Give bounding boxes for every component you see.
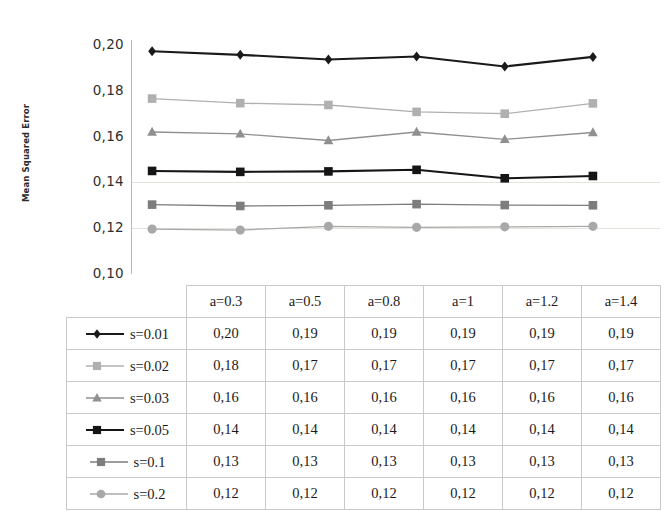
table-column-header: a=0.8 — [345, 286, 424, 318]
table-cell: 0,13 — [424, 446, 503, 478]
square-marker — [148, 167, 157, 176]
table-cell: 0,12 — [345, 478, 424, 510]
legend-label: s=0.01 — [130, 326, 169, 343]
plot-area — [131, 40, 660, 274]
square-marker — [589, 172, 598, 181]
legend-swatch — [84, 423, 126, 437]
square-marker — [148, 200, 157, 209]
table-row: s=0.20,120,120,120,120,120,12 — [67, 478, 661, 510]
table-cell: 0,19 — [266, 318, 345, 350]
diamond-marker — [413, 51, 421, 61]
legend-cell: s=0.01 — [67, 318, 187, 350]
series-line — [152, 170, 593, 178]
table-column-header: a=1.2 — [503, 286, 582, 318]
table-column-header: a=1 — [424, 286, 503, 318]
table-cell: 0,16 — [187, 382, 266, 414]
legend-label: s=0.1 — [134, 454, 166, 471]
square-marker — [589, 99, 598, 108]
table-cell: 0,17 — [266, 350, 345, 382]
table-cell: 0,14 — [582, 414, 661, 446]
table-cell: 0,13 — [345, 446, 424, 478]
series-s-0-01 — [148, 46, 597, 71]
square-marker — [500, 109, 509, 118]
legend-cell: s=0.2 — [67, 478, 187, 510]
table-column-header: a=1.4 — [582, 286, 661, 318]
diamond-marker — [93, 329, 100, 339]
series-line — [152, 204, 593, 206]
table-cell: 0,13 — [187, 446, 266, 478]
data-table: a=0.3a=0.5a=0.8a=1a=1.2a=1.4 s=0.010,200… — [66, 285, 661, 510]
table-cell: 0,17 — [582, 350, 661, 382]
square-marker — [589, 201, 598, 210]
table-cell: 0,12 — [266, 478, 345, 510]
chart-figure: Mean Squared Error 0,200,180,160,140,120… — [0, 0, 668, 511]
y-axis-tick-label: 0,18 — [62, 82, 124, 98]
table-row: s=0.030,160,160,160,160,160,16 — [67, 382, 661, 414]
table-cell: 0,12 — [582, 478, 661, 510]
y-axis-tick-label: 0,16 — [62, 128, 124, 144]
square-marker — [500, 174, 509, 183]
legend-label: s=0.2 — [134, 486, 166, 503]
table-cell: 0,19 — [503, 318, 582, 350]
legend-label: s=0.03 — [130, 390, 169, 407]
table-cell: 0,19 — [345, 318, 424, 350]
series-s-0-1 — [148, 200, 597, 210]
circle-marker — [412, 223, 421, 232]
table-column-header: a=0.5 — [266, 286, 345, 318]
table-cell: 0,16 — [424, 382, 503, 414]
square-marker — [324, 101, 333, 110]
table-corner-cell — [67, 286, 187, 318]
legend-swatch — [84, 391, 126, 405]
square-marker — [236, 99, 245, 108]
table-cell: 0,16 — [582, 382, 661, 414]
square-marker — [412, 108, 421, 117]
circle-marker — [147, 225, 156, 234]
series-s-0-02 — [148, 94, 597, 118]
series-line — [152, 51, 593, 66]
legend-label: s=0.05 — [130, 422, 169, 439]
legend-label: s=0.02 — [130, 358, 169, 375]
triangle-marker — [235, 129, 245, 138]
square-marker — [93, 426, 101, 434]
square-marker — [148, 94, 157, 103]
diamond-marker — [501, 62, 509, 72]
legend-cell: s=0.1 — [67, 446, 187, 478]
table-cell: 0,17 — [503, 350, 582, 382]
triangle-marker — [412, 127, 422, 136]
y-axis-tick-label: 0,20 — [62, 36, 124, 52]
legend-swatch — [88, 455, 130, 469]
table-cell: 0,16 — [345, 382, 424, 414]
table-row: s=0.10,130,130,130,130,130,13 — [67, 446, 661, 478]
square-marker — [324, 167, 333, 176]
legend-cell: s=0.02 — [67, 350, 187, 382]
series-line — [152, 132, 593, 140]
circle-marker — [324, 222, 333, 231]
triangle-marker — [588, 127, 598, 136]
series-s-0-03 — [147, 127, 598, 144]
table-cell: 0,16 — [503, 382, 582, 414]
table-cell: 0,19 — [582, 318, 661, 350]
y-axis-tick-label: 0,10 — [62, 265, 124, 281]
table-cell: 0,13 — [503, 446, 582, 478]
table-cell: 0,14 — [345, 414, 424, 446]
table-cell: 0,12 — [503, 478, 582, 510]
series-plot — [131, 40, 660, 274]
table-cell: 0,17 — [424, 350, 503, 382]
table-row: s=0.050,140,140,140,140,140,14 — [67, 414, 661, 446]
table-header-row: a=0.3a=0.5a=0.8a=1a=1.2a=1.4 — [67, 286, 661, 318]
legend-cell: s=0.05 — [67, 414, 187, 446]
square-marker — [236, 202, 245, 211]
circle-marker — [500, 222, 509, 231]
series-s-0-2 — [147, 222, 597, 235]
square-marker — [412, 200, 421, 209]
legend-cell: s=0.03 — [67, 382, 187, 414]
square-marker — [412, 166, 421, 175]
circle-marker — [96, 490, 105, 499]
circle-marker — [588, 222, 597, 231]
table-cell: 0,20 — [187, 318, 266, 350]
legend-swatch — [84, 359, 126, 373]
legend-swatch — [84, 327, 126, 341]
table-cell: 0,16 — [266, 382, 345, 414]
circle-marker — [236, 225, 245, 234]
series-s-0-05 — [148, 166, 597, 183]
